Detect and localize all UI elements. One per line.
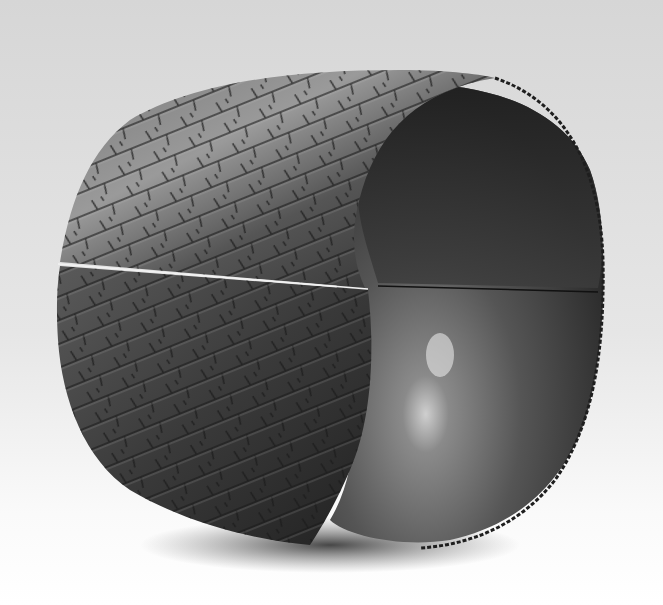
photograph — [0, 0, 663, 605]
inner-highlight — [426, 333, 454, 377]
cylinder-sculpture-image — [0, 0, 663, 605]
